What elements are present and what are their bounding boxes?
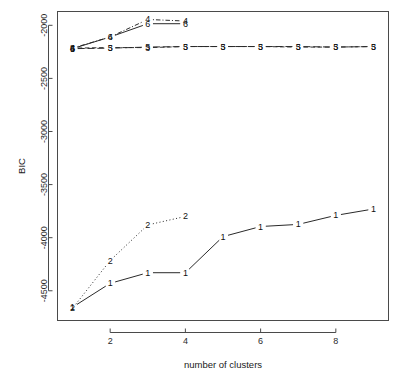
data-point-marker: 6 xyxy=(183,19,188,29)
data-point-marker: 2 xyxy=(70,303,75,313)
data-point-marker: 5 xyxy=(258,42,263,52)
series-segment xyxy=(189,240,219,269)
x-axis-title: number of clusters xyxy=(184,359,262,370)
data-point-marker: 5 xyxy=(108,43,113,53)
series-segment xyxy=(78,39,106,48)
data-point-marker: 1 xyxy=(183,268,188,278)
series-segment xyxy=(303,217,331,224)
data-point-marker: 1 xyxy=(108,278,113,288)
series-1: 111111111 xyxy=(70,204,376,312)
y-axis-title: BIC xyxy=(16,158,27,174)
series-segment xyxy=(77,286,106,304)
y-axis-tick-label: -2000 xyxy=(40,14,50,37)
series-5: 555555555 xyxy=(70,42,376,54)
data-point-marker: 5 xyxy=(145,42,150,52)
series-segment xyxy=(341,210,368,215)
x-axis-tick-label: 4 xyxy=(183,336,188,346)
series-segment xyxy=(153,20,180,21)
data-point-marker: 1 xyxy=(296,219,301,229)
data-point-marker: 1 xyxy=(145,268,150,278)
data-point-marker: 5 xyxy=(183,42,188,52)
y-axis-tick-label: -2500 xyxy=(40,67,50,90)
series-segment xyxy=(76,265,107,305)
plot-frame xyxy=(58,12,389,321)
data-point-marker: 5 xyxy=(220,42,225,52)
y-axis-tick-label: -3000 xyxy=(40,120,50,143)
series-segment xyxy=(153,218,180,224)
x-axis-tick-label: 6 xyxy=(258,336,263,346)
series-segment xyxy=(115,22,143,35)
series-segment xyxy=(115,274,143,282)
data-point-marker: 5 xyxy=(333,42,338,52)
series-segment xyxy=(115,25,143,35)
data-point-marker: 6 xyxy=(145,19,150,29)
series-segment xyxy=(114,229,144,257)
data-point-marker: 2 xyxy=(108,256,113,266)
data-point-marker: 6 xyxy=(108,32,113,42)
y-axis-tick-label: -4000 xyxy=(40,226,50,249)
data-point-marker: 1 xyxy=(333,210,338,220)
y-axis-tick-label: -3500 xyxy=(40,173,50,196)
x-axis-tick-label: 8 xyxy=(333,336,338,346)
data-point-marker: 2 xyxy=(145,220,150,230)
series-segment xyxy=(266,225,293,227)
x-axis-tick-label: 2 xyxy=(108,336,113,346)
y-axis-tick-label: -4500 xyxy=(40,279,50,302)
data-point-marker: 1 xyxy=(220,232,225,242)
data-point-marker: 5 xyxy=(371,42,376,52)
data-point-marker: 5 xyxy=(296,42,301,52)
data-point-marker: 1 xyxy=(258,222,263,232)
data-point-marker: 6 xyxy=(70,44,75,54)
bic-chart: 2468number of clusters-2000-2500-3000-35… xyxy=(0,0,400,379)
data-point-marker: 1 xyxy=(371,204,376,214)
chart-canvas: 2468number of clusters-2000-2500-3000-35… xyxy=(0,0,400,379)
series-segment xyxy=(228,228,256,235)
data-point-marker: 2 xyxy=(183,211,188,221)
